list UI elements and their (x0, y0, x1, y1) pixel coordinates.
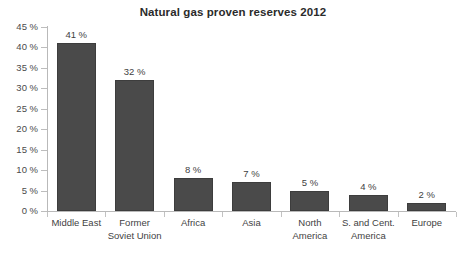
bar (115, 80, 154, 211)
bar-value-label: 8 % (163, 164, 223, 175)
x-axis-tick (339, 212, 340, 217)
bar-chart: Natural gas proven reserves 2012 0 %5 %1… (0, 0, 466, 255)
x-axis-category-label: Europe (398, 217, 456, 230)
y-axis-tick (41, 88, 47, 89)
x-axis-category-label: S. and Cent. America (339, 217, 397, 242)
y-axis-label: 10 % (0, 165, 38, 175)
bar (57, 43, 96, 211)
bar-value-label: 4 % (338, 181, 398, 192)
bar-value-label: 41 % (46, 29, 106, 40)
bar-value-label: 7 % (222, 168, 282, 179)
y-axis-tick (41, 47, 47, 48)
bar (290, 191, 329, 211)
x-axis-tick (47, 212, 48, 217)
bar-value-label: 2 % (397, 189, 457, 200)
y-axis-tick (41, 68, 47, 69)
y-axis-label: 30 % (0, 83, 38, 93)
x-axis-category-label: Middle East (47, 217, 105, 230)
x-axis-line (47, 211, 456, 212)
y-axis-label: 20 % (0, 124, 38, 134)
y-axis-line (47, 26, 48, 212)
y-axis-label: 5 % (0, 186, 38, 196)
bar (232, 182, 271, 211)
x-axis-tick (105, 212, 106, 217)
x-axis-tick (398, 212, 399, 217)
y-axis-label: 35 % (0, 63, 38, 73)
y-axis-label: 0 % (0, 206, 38, 216)
x-axis-tick (222, 212, 223, 217)
x-axis-category-label: Africa (164, 217, 222, 230)
bar (407, 203, 446, 211)
x-axis-category-label: North America (281, 217, 339, 242)
x-axis-tick (281, 212, 282, 217)
bar (174, 178, 213, 211)
chart-title: Natural gas proven reserves 2012 (0, 6, 466, 18)
y-axis-tick (41, 27, 47, 28)
x-axis-category-label: Former Soviet Union (105, 217, 163, 242)
y-axis-label: 40 % (0, 42, 38, 52)
bar-value-label: 5 % (280, 177, 340, 188)
y-axis-tick (41, 170, 47, 171)
x-axis-tick (456, 212, 457, 217)
x-axis-category-label: Asia (222, 217, 280, 230)
y-axis-tick (41, 129, 47, 130)
y-axis-label: 45 % (0, 22, 38, 32)
x-axis-tick (164, 212, 165, 217)
bar-value-label: 32 % (105, 66, 165, 77)
y-axis-label: 15 % (0, 145, 38, 155)
y-axis-label: 25 % (0, 104, 38, 114)
y-axis-tick (41, 191, 47, 192)
bar (349, 195, 388, 211)
y-axis-tick (41, 150, 47, 151)
y-axis-tick (41, 109, 47, 110)
